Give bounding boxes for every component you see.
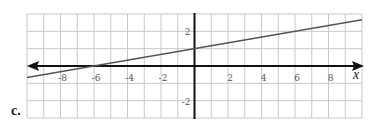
x-tick-label: -6 [92, 73, 101, 83]
x-tick-label: -2 [159, 73, 168, 83]
x-axis-label: x [352, 67, 360, 82]
x-tick-label: 6 [294, 73, 300, 83]
x-tick-label: -4 [125, 73, 134, 83]
coordinate-plane: -8-6-4-224682-2x [0, 0, 378, 126]
y-tick-label: -2 [182, 97, 191, 107]
x-tick-label: -8 [58, 73, 67, 83]
x-tick-label: 4 [261, 73, 267, 83]
y-tick-label: 2 [185, 27, 191, 37]
x-tick-label: 2 [227, 73, 233, 83]
x-tick-label: 8 [328, 73, 334, 83]
figure-label: c. [11, 103, 21, 119]
